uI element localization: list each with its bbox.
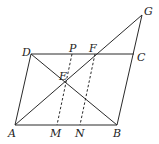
label-C: C (137, 51, 146, 64)
segment-FN (80, 54, 95, 125)
label-E: E (58, 70, 67, 83)
label-N: N (74, 127, 85, 140)
label-F: F (88, 42, 97, 55)
label-G: G (144, 5, 153, 18)
segment-DB (31, 54, 117, 125)
label-A: A (7, 127, 16, 140)
label-B: B (112, 127, 121, 140)
segment-PM (57, 54, 72, 125)
segment-DA (15, 54, 31, 125)
label-D: D (21, 46, 31, 59)
geometry-figure: A M N B D P F C G E (0, 0, 159, 144)
segment-BC (117, 15, 142, 125)
label-P: P (68, 42, 77, 55)
label-M: M (49, 127, 62, 140)
segment-AG (15, 15, 142, 125)
